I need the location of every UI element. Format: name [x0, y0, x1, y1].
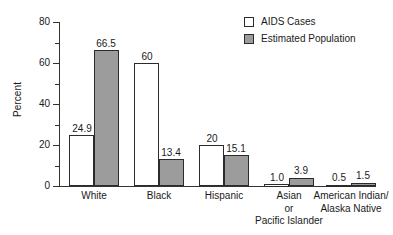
- bar-value-white-estimated-population: 66.5: [90, 38, 122, 49]
- legend-item-estimated-population: Estimated Population: [244, 30, 356, 47]
- bar-black-aids-cases: [134, 63, 159, 186]
- y-tick-60: [53, 63, 59, 64]
- y-tick-label-60: 60: [26, 58, 50, 68]
- y-tick-80: [53, 22, 59, 23]
- y-tick-label-80: 80: [26, 17, 50, 27]
- y-axis-line: [59, 22, 60, 187]
- legend-label-aids-cases: AIDS Cases: [261, 16, 315, 27]
- x-category-label-american-indian-alaska-native: American Indian/ Alaska Native: [308, 190, 393, 215]
- y-tick-50: [55, 84, 59, 85]
- bar-asian-aids-cases: [264, 184, 289, 187]
- bar-value-american-indian-estimated-population: 1.5: [347, 170, 379, 181]
- bar-value-black-aids-cases: 60: [133, 51, 161, 62]
- y-tick-label-0: 0: [26, 181, 50, 191]
- y-tick-10: [55, 166, 59, 167]
- y-tick-20: [53, 145, 59, 146]
- bar-value-hispanic-estimated-population: 15.1: [220, 143, 252, 154]
- bar-white-estimated-population: [94, 50, 119, 186]
- legend-label-estimated-population: Estimated Population: [261, 33, 356, 44]
- bar-value-black-estimated-population: 13.4: [155, 147, 187, 158]
- bar-hispanic-estimated-population: [224, 155, 249, 186]
- x-category-label-white: White: [64, 190, 124, 203]
- bar-white-aids-cases: [69, 135, 94, 186]
- bar-value-asian-estimated-population: 3.9: [285, 165, 317, 176]
- y-tick-label-40: 40: [26, 99, 50, 109]
- legend: AIDS Cases Estimated Population: [244, 13, 356, 47]
- y-tick-0: [53, 186, 59, 187]
- y-axis-title: Percent: [12, 70, 23, 130]
- y-tick-label-20: 20: [26, 140, 50, 150]
- x-category-label-black: Black: [129, 190, 189, 203]
- bar-chart: Percent 80 60 40 20 0 24.9 66.5 60 13.4 …: [0, 0, 393, 235]
- bar-american-indian-estimated-population: [351, 183, 376, 186]
- bar-american-indian-aids-cases: [326, 185, 351, 187]
- bar-value-white-aids-cases: 24.9: [66, 123, 98, 134]
- gray-square-swatch-icon: [244, 34, 254, 44]
- legend-item-aids-cases: AIDS Cases: [244, 13, 356, 30]
- y-tick-40: [53, 104, 59, 105]
- bar-black-estimated-population: [159, 159, 184, 186]
- white-square-swatch-icon: [244, 17, 254, 27]
- y-tick-70: [55, 43, 59, 44]
- y-tick-30: [55, 125, 59, 126]
